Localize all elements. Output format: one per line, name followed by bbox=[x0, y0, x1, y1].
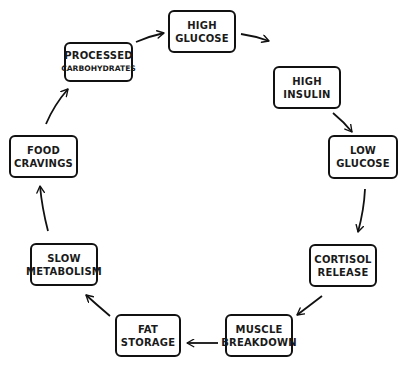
node-food-cravings: FOOD CRAVINGS bbox=[9, 135, 78, 178]
node-high-glucose: HIGH GLUCOSE bbox=[168, 10, 236, 53]
arrow-high-insulin-to-low-glucose bbox=[333, 113, 352, 132]
arrows-layer bbox=[0, 0, 404, 368]
node-label-line: HIGH bbox=[187, 19, 216, 32]
node-label-line: GLUCOSE bbox=[336, 157, 390, 170]
node-label-line: METABOLISM bbox=[26, 265, 102, 278]
node-label-line: CARBOHYDRATES bbox=[61, 62, 136, 75]
node-label-line: LOW bbox=[350, 144, 376, 157]
node-label-line: HIGH bbox=[292, 75, 321, 88]
node-muscle-breakdown: MUSCLE BREAKDOWN bbox=[225, 314, 293, 357]
node-cortisol-release: CORTISOL RELEASE bbox=[309, 244, 377, 287]
node-label-line: GLUCOSE bbox=[175, 32, 229, 45]
node-slow-metabolism: SLOW METABOLISM bbox=[30, 243, 98, 286]
arrow-cortisol-release-to-muscle-breakdown bbox=[297, 296, 322, 315]
arrow-food-cravings-to-processed-carbohydrates bbox=[46, 89, 68, 124]
node-processed-carbohydrates: PROCESSED CARBOHYDRATES bbox=[64, 42, 133, 82]
node-low-glucose: LOW GLUCOSE bbox=[328, 135, 398, 179]
node-label-line: FAT bbox=[138, 323, 158, 336]
node-label-line: PROCESSED bbox=[64, 49, 133, 62]
node-fat-storage: FAT STORAGE bbox=[115, 314, 181, 357]
node-label-line: INSULIN bbox=[283, 88, 330, 101]
node-label-line: BREAKDOWN bbox=[221, 336, 297, 349]
node-label-line: SLOW bbox=[47, 252, 81, 265]
node-label-line: RELEASE bbox=[318, 266, 369, 279]
arrow-slow-metabolism-to-food-cravings bbox=[40, 186, 48, 231]
arrow-fat-storage-to-slow-metabolism bbox=[86, 295, 110, 316]
node-label-line: CRAVINGS bbox=[14, 157, 73, 170]
node-label-line: STORAGE bbox=[121, 336, 175, 349]
arrow-low-glucose-to-cortisol-release bbox=[358, 189, 365, 232]
node-label-line: CORTISOL bbox=[314, 253, 371, 266]
node-high-insulin: HIGH INSULIN bbox=[273, 66, 341, 109]
arrow-high-glucose-to-high-insulin bbox=[241, 34, 269, 41]
node-label-line: MUSCLE bbox=[235, 323, 282, 336]
node-label-line: FOOD bbox=[27, 144, 60, 157]
cycle-diagram: HIGH GLUCOSE HIGH INSULIN LOW GLUCOSE CO… bbox=[0, 0, 404, 368]
arrow-processed-carbohydrates-to-high-glucose bbox=[136, 33, 164, 42]
